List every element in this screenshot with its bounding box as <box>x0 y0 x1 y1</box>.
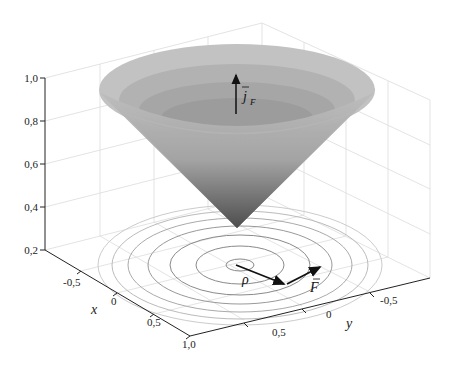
x-tick: 1,0 <box>182 338 196 350</box>
x-axis-label: x <box>90 302 98 317</box>
z-tick: 0,2 <box>24 244 38 256</box>
y-axis-label: y <box>344 316 353 331</box>
plot-canvas: j F ρ F 1,0 0,8 0,6 0,4 0,2 <box>0 0 451 372</box>
x-tick: 0,5 <box>147 316 161 328</box>
z-tick: 1,0 <box>24 72 38 84</box>
cone-surface <box>99 44 375 228</box>
y-tick: 0 <box>326 308 332 320</box>
rho-label: ρ <box>241 272 249 287</box>
x-tick: 0 <box>111 295 117 307</box>
z-tick: 0,8 <box>24 115 38 127</box>
y-tick: -0,5 <box>380 294 398 306</box>
y-tick: 0,5 <box>272 326 286 338</box>
z-axis-ticks: 1,0 0,8 0,6 0,4 0,2 <box>24 72 38 256</box>
z-tick: 0,6 <box>24 158 38 170</box>
z-tick: 0,4 <box>24 201 38 213</box>
x-axis-ticks: -0,5 0 0,5 1,0 x <box>63 276 196 350</box>
jF-subscript: F <box>249 97 256 107</box>
x-tick: -0,5 <box>63 276 81 288</box>
F-label: F <box>309 280 319 295</box>
